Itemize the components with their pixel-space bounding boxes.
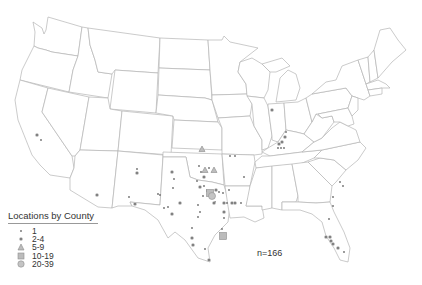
state-colorado [118, 111, 173, 155]
location-marker [208, 167, 210, 169]
triangle-icon [16, 243, 26, 251]
location-marker [35, 133, 38, 136]
sample-size-label: n=166 [257, 248, 282, 258]
location-marker [277, 147, 279, 149]
state-montana [88, 28, 160, 74]
location-marker [157, 193, 159, 195]
location-marker [202, 175, 205, 178]
location-marker [222, 210, 225, 213]
location-marker [329, 239, 332, 242]
location-marker [212, 201, 215, 204]
state-north-dakota [159, 38, 210, 70]
location-marker [170, 170, 173, 173]
location-marker [197, 204, 199, 206]
location-marker [203, 185, 205, 187]
legend-label: 20-39 [32, 259, 54, 269]
location-marker [324, 235, 327, 238]
location-marker [229, 155, 231, 157]
location-marker [190, 236, 193, 239]
location-marker [170, 212, 173, 215]
location-marker [283, 135, 286, 138]
location-marker [133, 202, 136, 205]
location-marker [167, 206, 169, 208]
location-marker [40, 139, 42, 141]
location-marker [196, 180, 198, 182]
location-marker [222, 201, 225, 204]
location-marker [163, 207, 165, 209]
legend-item-2-4: 2-4 [8, 235, 98, 243]
location-marker [243, 176, 245, 178]
location-marker [207, 258, 210, 261]
location-marker [199, 211, 201, 213]
location-marker [220, 233, 227, 240]
location-marker [280, 140, 283, 143]
square-icon [16, 252, 26, 260]
circle-icon [16, 260, 26, 268]
location-marker [197, 216, 199, 218]
location-marker [128, 196, 130, 198]
state-florida [282, 202, 350, 262]
location-marker [95, 193, 98, 196]
location-marker [331, 242, 334, 245]
legend-item-20-39: 20-39 [8, 260, 98, 268]
location-marker [222, 192, 224, 194]
location-marker [226, 202, 228, 204]
location-marker [285, 131, 287, 133]
state-maine [374, 28, 406, 78]
location-marker [240, 202, 242, 204]
location-marker [336, 246, 339, 249]
location-marker [270, 108, 273, 111]
location-marker [136, 168, 138, 170]
small-dot-icon [16, 227, 26, 235]
map-legend: Locations by County 1 2-4 5-9 10-19 20-3… [8, 210, 98, 268]
state-arizona [70, 150, 118, 208]
legend-item-1: 1 [8, 227, 98, 235]
location-marker [223, 217, 225, 219]
location-marker [277, 142, 280, 145]
location-marker [332, 205, 334, 207]
location-marker [198, 165, 200, 167]
location-marker [135, 171, 138, 174]
state-arkansas [222, 154, 255, 186]
location-marker [209, 193, 216, 200]
location-marker [342, 185, 344, 187]
location-marker [191, 243, 194, 246]
location-marker [221, 228, 223, 230]
location-marker [328, 235, 331, 238]
location-marker [218, 191, 220, 193]
location-marker [202, 195, 204, 197]
location-marker [234, 155, 236, 157]
star-dot-icon [16, 235, 26, 243]
legend-title: Locations by County [8, 210, 98, 224]
location-marker [172, 187, 174, 189]
location-marker [283, 147, 285, 149]
location-marker [343, 251, 345, 253]
location-marker [178, 201, 181, 204]
location-marker [159, 194, 161, 196]
state-iowa [212, 94, 252, 118]
location-marker [233, 201, 236, 204]
location-marker [214, 188, 217, 191]
location-marker [280, 147, 282, 149]
location-marker [191, 227, 193, 229]
location-marker [332, 196, 334, 198]
location-marker [173, 178, 175, 180]
state-wyoming [110, 70, 158, 113]
location-marker [204, 248, 206, 250]
state-new-mexico [112, 151, 163, 208]
location-marker [198, 185, 201, 188]
location-marker [328, 218, 330, 220]
location-marker [228, 189, 230, 191]
location-marker [339, 181, 341, 183]
state-kansas [172, 120, 222, 150]
